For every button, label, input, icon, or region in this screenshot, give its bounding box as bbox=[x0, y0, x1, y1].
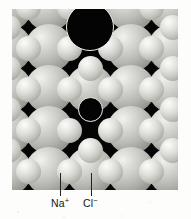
sodium-ion-charge: + bbox=[65, 196, 69, 205]
sodium-ion-sphere bbox=[57, 118, 82, 143]
sodium-ion-sphere bbox=[160, 97, 179, 122]
sodium-ion-symbol: Na bbox=[51, 197, 65, 209]
sodium-ion-sphere bbox=[160, 56, 179, 81]
sodium-ion-sphere bbox=[78, 56, 103, 81]
sodium-ion-sphere bbox=[160, 15, 179, 40]
sodium-ion-sphere bbox=[160, 138, 179, 163]
vacant-cation-site bbox=[78, 97, 103, 122]
crystal-lattice-panel bbox=[12, 9, 178, 190]
sodium-ion-sphere bbox=[98, 159, 123, 184]
sodium-ion-sphere bbox=[98, 77, 123, 102]
sodium-ion-sphere bbox=[139, 77, 164, 102]
chloride-ion-leader-line bbox=[91, 173, 92, 196]
sodium-ion-sphere bbox=[139, 159, 164, 184]
chloride-ion-charge: − bbox=[93, 196, 97, 205]
sodium-ion-sphere bbox=[16, 36, 41, 61]
sodium-ion-label: Na+ bbox=[51, 198, 69, 209]
sodium-ion-sphere bbox=[139, 36, 164, 61]
nacl-lattice-figure: Na+Cl− bbox=[0, 0, 191, 219]
sodium-ion-sphere bbox=[78, 138, 103, 163]
sodium-ion-leader-line bbox=[60, 173, 61, 196]
chloride-ion-symbol: Cl bbox=[83, 197, 93, 209]
sodium-ion-sphere bbox=[16, 159, 41, 184]
sodium-ion-sphere bbox=[16, 77, 41, 102]
sodium-ion-sphere bbox=[57, 77, 82, 102]
sodium-ion-sphere bbox=[139, 118, 164, 143]
chloride-ion-label: Cl− bbox=[83, 198, 98, 209]
sodium-ion-sphere bbox=[16, 118, 41, 143]
sodium-ion-sphere bbox=[98, 118, 123, 143]
